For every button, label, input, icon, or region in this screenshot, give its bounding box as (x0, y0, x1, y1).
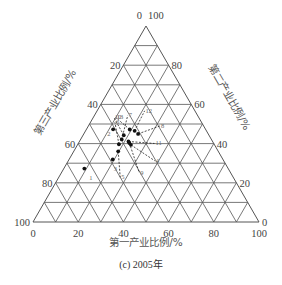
data-point-label: 5 (121, 173, 124, 180)
data-point (82, 167, 86, 171)
data-point-label: 1 (89, 174, 92, 181)
bottom-tick: 80 (209, 228, 220, 239)
data-point-label: 3 (114, 165, 117, 172)
bottom-axis-title: 第一产业比例/% (109, 236, 183, 248)
data-point-label: 12 (146, 107, 153, 114)
data-point (120, 137, 124, 141)
bottom-tick: 20 (73, 228, 84, 239)
data-point (136, 132, 140, 136)
data-point (127, 140, 131, 144)
data-point (116, 149, 120, 153)
left-tick: 80 (42, 178, 53, 189)
right-tick: 40 (217, 139, 228, 150)
figure-caption: (c) 2005年 (0, 256, 282, 271)
left-axis-title: 第三产业比例/% (31, 67, 78, 137)
right-tick: 80 (172, 60, 183, 71)
right-tick: 100 (148, 10, 164, 21)
tick-labels: 020406080100020406080100020406080100 (14, 10, 267, 239)
data-point (133, 129, 137, 133)
left-tick: 40 (87, 99, 98, 110)
left-tick: 20 (110, 60, 121, 71)
right-tick: 20 (239, 178, 250, 189)
data-point-label: 2 (107, 130, 110, 137)
data-point-label: 9 (140, 169, 143, 176)
left-tick: 60 (65, 139, 76, 150)
data-point (128, 128, 132, 132)
data-point (117, 142, 121, 146)
data-point-label: 11 (155, 139, 161, 146)
left-tick: 0 (137, 10, 142, 21)
data-point-label: 7 (129, 111, 133, 118)
right-tick: 0 (262, 217, 267, 228)
data-point-label: 13 (117, 113, 124, 120)
data-point (111, 158, 115, 162)
right-tick: 60 (194, 99, 205, 110)
left-tick: 100 (14, 217, 30, 228)
data-point (111, 127, 115, 131)
data-point-label: 8 (161, 122, 164, 129)
bottom-tick: 100 (251, 228, 267, 239)
ternary-chart: 12345678910111213 0204060801000204060801… (0, 0, 282, 285)
bottom-tick: 0 (30, 228, 35, 239)
right-axis-title: 第二产业比例/% (206, 62, 253, 132)
data-point (122, 133, 126, 137)
